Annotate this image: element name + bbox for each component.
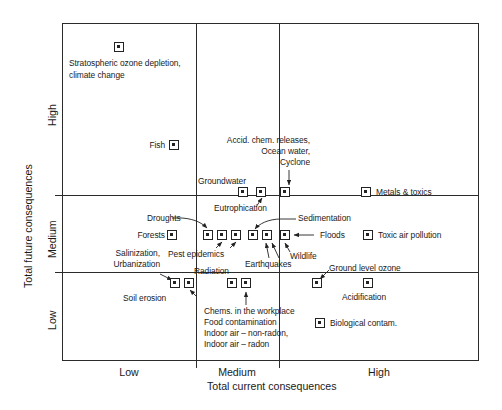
marker-groundwater xyxy=(238,187,248,197)
x-tick-label-medium: Medium xyxy=(207,366,267,378)
label-wildlife: Wildlife xyxy=(290,251,317,261)
label-radiation: Radiation xyxy=(194,266,229,276)
label-chems-workplace: Chems. in the workplace xyxy=(204,306,295,316)
marker-ground-level-ozone xyxy=(312,278,322,288)
x-axis-title: Total current consequences xyxy=(207,380,337,392)
label-stratospheric-line1: Stratospheric ozone depletion, xyxy=(69,58,181,68)
marker-eutrophication-high xyxy=(256,187,266,197)
x-tick-label-low: Low xyxy=(99,366,159,378)
label-acidification: Acidification xyxy=(342,292,386,302)
marker-toxic-air-pollution xyxy=(363,230,373,240)
marker-salinization-urbanization xyxy=(170,278,180,288)
label-food-contamination: Food contamination xyxy=(204,317,277,327)
label-floods: Floods xyxy=(320,230,345,240)
label-soil-erosion: Soil erosion xyxy=(123,293,166,303)
marker-forests xyxy=(167,230,177,240)
label-earthquakes: Earthquakes xyxy=(245,259,291,269)
marker-droughts xyxy=(203,230,213,240)
label-fish: Fish xyxy=(130,140,165,150)
label-stratospheric-line2: climate change xyxy=(69,70,125,80)
marker-pest-epidemics-b xyxy=(231,230,241,240)
marker-accid-chem-cyclone xyxy=(280,187,290,197)
marker-sedimentation xyxy=(248,230,258,240)
marker-soil-erosion xyxy=(184,278,194,288)
y-tick-medium-low xyxy=(55,272,62,273)
x-tick-low-medium xyxy=(196,361,197,368)
x-tick-medium-high xyxy=(279,361,280,368)
marker-chems-workplace xyxy=(241,278,251,288)
label-droughts: Droughts xyxy=(147,213,181,223)
label-biological-contam: Biological contam. xyxy=(330,318,397,328)
marker-wildlife-floods xyxy=(280,230,290,240)
label-ground-level-ozone: Ground level ozone xyxy=(329,263,401,273)
label-toxic-air-pollution: Toxic air pollution xyxy=(378,230,441,240)
marker-radiation xyxy=(227,278,237,288)
marker-pest-epidemics-a xyxy=(217,230,227,240)
y-tick-label-low: Low xyxy=(46,311,58,330)
marker-stratospheric-ozone xyxy=(114,42,124,52)
horizontal-divider-medium-low xyxy=(62,272,479,273)
label-urbanization: Urbanization xyxy=(85,259,160,269)
label-indoor-air-radon: Indoor air – radon xyxy=(204,339,269,349)
y-axis-title: Total future consequences xyxy=(22,164,34,288)
label-salinization: Salinization, xyxy=(85,248,160,258)
y-tick-label-high: High xyxy=(46,104,58,126)
risk-ranking-figure: Stratospheric ozone depletion, climate c… xyxy=(0,0,502,410)
label-sedimentation: Sedimentation xyxy=(298,213,351,223)
label-pest-epidemics: Pest epidemics xyxy=(168,249,224,259)
y-tick-high-medium xyxy=(55,195,62,196)
marker-earthquakes xyxy=(262,230,272,240)
y-tick-label-medium: Medium xyxy=(46,220,58,258)
vertical-divider-low-medium xyxy=(196,23,197,361)
marker-fish xyxy=(169,140,179,150)
label-metals-toxics: Metals & toxics xyxy=(376,187,432,197)
label-cyclone: Cyclone xyxy=(200,157,310,167)
label-forests: Forests xyxy=(110,230,165,240)
label-accid-chem-line1: Accid. chem. releases, xyxy=(200,135,310,145)
x-tick-label-high: High xyxy=(349,366,409,378)
marker-acidification xyxy=(363,278,373,288)
marker-biological-contam xyxy=(315,318,325,328)
label-eutrophication: Eutrophication xyxy=(214,203,267,213)
label-groundwater: Groundwater xyxy=(198,176,246,186)
label-indoor-air-nonradon: Indoor air – non-radon, xyxy=(204,328,288,338)
marker-metals-toxics xyxy=(361,187,371,197)
label-accid-chem-line2: Ocean water, xyxy=(200,146,310,156)
